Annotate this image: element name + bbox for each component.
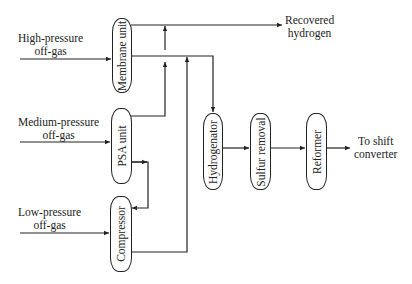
compressor-box: Compressor	[110, 196, 132, 272]
reformer-box: Reformer	[306, 113, 327, 190]
psa-to-membrane-line	[131, 62, 165, 116]
unit-label: Compressor	[115, 206, 127, 262]
label-line: To shift	[354, 135, 397, 148]
unit-label: PSA unit	[116, 125, 128, 166]
label-line: hydrogen	[285, 27, 334, 40]
output-recovered-hydrogen: Recovered hydrogen	[285, 14, 334, 40]
compressor-to-feed-line	[131, 57, 187, 252]
output-shift-converter: To shift converter	[354, 135, 397, 161]
unit-label: Membrane unit	[116, 20, 128, 91]
label-line: Recovered	[285, 14, 334, 27]
label-line: off-gas	[18, 45, 83, 58]
sulfur-removal-box: Sulfur removal	[250, 113, 271, 190]
membrane-unit-box: Membrane unit	[112, 18, 132, 93]
hydrogenator-box: Hydrogenator	[203, 113, 223, 190]
unit-label: Sulfur removal	[255, 117, 267, 186]
input-low-pressure: Low-pressure off-gas	[18, 206, 81, 232]
label-line: Medium-pressure	[18, 116, 99, 129]
input-high-pressure: High-pressure off-gas	[18, 32, 83, 58]
label-line: converter	[354, 148, 397, 161]
unit-label: Reformer	[311, 129, 323, 173]
psa-unit-box: PSA unit	[111, 108, 132, 184]
label-line: off-gas	[18, 219, 81, 232]
unit-label: Hydrogenator	[207, 120, 219, 184]
psa-tail-to-compressor	[131, 162, 148, 208]
label-line: High-pressure	[18, 32, 83, 45]
membrane-to-hydrogenator	[131, 56, 213, 112]
label-line: Low-pressure	[18, 206, 81, 219]
label-line: off-gas	[18, 129, 99, 142]
input-medium-pressure: Medium-pressure off-gas	[18, 116, 99, 142]
